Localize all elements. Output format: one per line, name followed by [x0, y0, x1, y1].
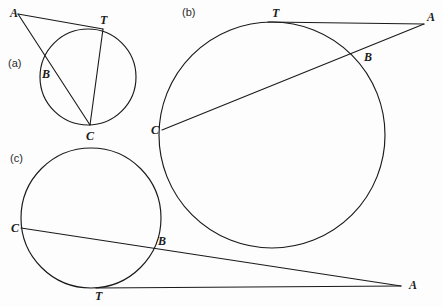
panel-a-secant-ABC: [18, 14, 90, 125]
panel-c-secant-CBA: [21, 228, 401, 286]
figure-page: (a) A T B C (b) A T B C (c) A T B C: [0, 0, 442, 307]
panel-b-caption: (b): [182, 6, 195, 18]
panel-a-tangent-AT: [18, 14, 103, 29]
geometry-figure: (a) A T B C (b) A T B C (c) A T B C: [0, 0, 442, 307]
panel-b: (b) A T B C: [151, 6, 435, 248]
panel-b-point-label-B: B: [363, 50, 372, 64]
panel-c: (c) A T B C: [10, 148, 417, 303]
panel-a-circle: [40, 29, 136, 125]
panel-c-point-label-B: B: [157, 234, 166, 248]
panel-c-tangent-TA: [96, 286, 401, 288]
panel-b-secant-ABC: [162, 24, 424, 130]
panel-c-caption: (c): [10, 152, 23, 164]
panel-a-point-label-B: B: [41, 67, 50, 81]
panel-a-caption: (a): [8, 57, 21, 69]
panel-c-point-label-T: T: [95, 289, 103, 303]
panel-a-point-label-A: A: [9, 6, 18, 20]
panel-b-point-label-A: A: [426, 10, 435, 24]
panel-b-circle: [159, 22, 385, 248]
panel-a-point-label-T: T: [100, 13, 108, 27]
panel-a-point-label-C: C: [86, 129, 95, 143]
panel-c-point-label-C: C: [11, 221, 20, 235]
panel-b-point-label-T: T: [272, 6, 280, 20]
panel-c-circle: [21, 148, 161, 288]
panel-c-point-label-A: A: [408, 278, 417, 292]
panel-a-chord-TC: [90, 29, 103, 125]
panel-a: (a) A T B C: [8, 6, 136, 143]
panel-b-point-label-C: C: [151, 123, 160, 137]
